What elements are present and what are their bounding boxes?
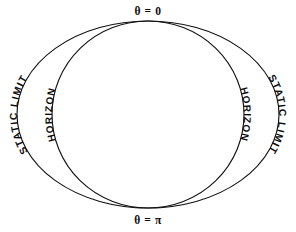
- horizon-label-left-text: HORIZON: [43, 86, 58, 143]
- horizon-curve: [52, 21, 244, 208]
- ergosphere-diagram: STATIC LIMIT STATIC LIMIT HORIZON HORIZO…: [0, 0, 296, 232]
- pole-label-top: θ = 0: [134, 5, 161, 17]
- horizon-label-right-text: HORIZON: [238, 86, 253, 143]
- static-limit-curve: [17, 21, 279, 208]
- static-limit-label-right: STATIC LIMIT: [266, 73, 288, 157]
- static-limit-label-right-text: STATIC LIMIT: [266, 73, 288, 157]
- pole-label-bottom: θ = π: [134, 214, 162, 226]
- horizon-label-left: HORIZON: [43, 86, 58, 143]
- horizon-label-right: HORIZON: [238, 86, 253, 143]
- figure-root: STATIC LIMIT STATIC LIMIT HORIZON HORIZO…: [0, 0, 296, 232]
- static-limit-label-left-text: STATIC LIMIT: [8, 73, 30, 157]
- static-limit-label-left: STATIC LIMIT: [8, 73, 30, 157]
